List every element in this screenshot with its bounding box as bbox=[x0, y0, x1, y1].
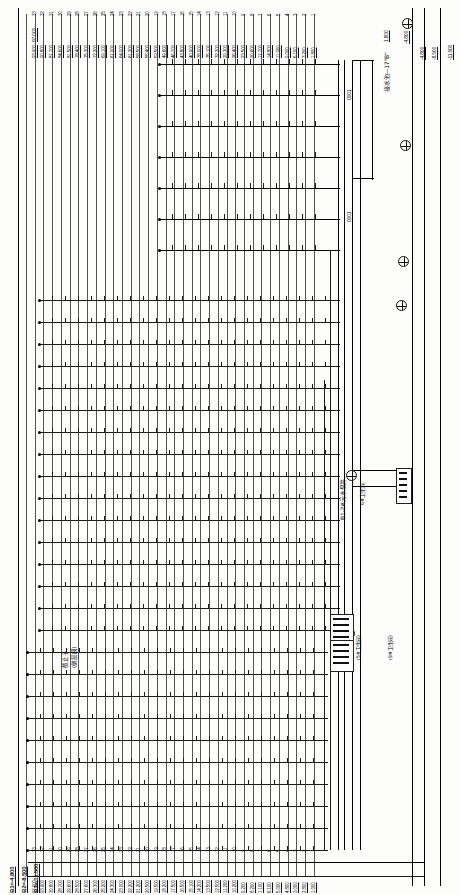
pipe-vertical bbox=[248, 780, 249, 784]
pipe-vertical bbox=[247, 406, 248, 410]
pipe-vertical bbox=[196, 692, 197, 696]
floor-number: 8 bbox=[250, 14, 255, 16]
pipe-vertical bbox=[273, 582, 274, 586]
floor-number: 17 bbox=[171, 11, 176, 16]
floor-number: 1 bbox=[311, 14, 316, 16]
pipe-vertical bbox=[208, 384, 209, 388]
pipe-vertical bbox=[300, 846, 301, 850]
floor-line bbox=[192, 14, 193, 876]
pipe-vertical bbox=[221, 362, 222, 366]
pipe-vertical bbox=[91, 318, 92, 322]
bottom-elevation-value: 28.500 bbox=[75, 880, 80, 893]
pipe-vertical bbox=[222, 714, 223, 718]
pipe-vertical bbox=[250, 59, 251, 64]
pipe-vertical bbox=[208, 318, 209, 322]
pipe-vertical bbox=[286, 516, 287, 520]
pipe-vertical bbox=[79, 714, 80, 718]
pipe-vertical bbox=[261, 824, 262, 828]
pipe-vertical bbox=[211, 245, 212, 250]
pipe-vertical bbox=[221, 604, 222, 608]
pipe-node bbox=[38, 629, 41, 632]
pipe-vertical bbox=[260, 450, 261, 454]
pipe-vertical bbox=[250, 214, 251, 219]
pipe-vertical bbox=[273, 626, 274, 630]
pipe-vertical bbox=[144, 736, 145, 740]
pipe-vertical bbox=[65, 538, 66, 542]
pipe-vertical bbox=[234, 560, 235, 564]
pipe-node bbox=[38, 453, 41, 456]
pipe-node bbox=[26, 849, 29, 852]
pipe-vertical bbox=[312, 406, 313, 410]
pipe-vertical bbox=[131, 692, 132, 696]
pipe-vertical bbox=[169, 384, 170, 388]
pipe-vertical bbox=[169, 604, 170, 608]
pipe-vertical bbox=[300, 780, 301, 784]
pipe-vertical bbox=[325, 296, 326, 300]
pipe-vertical bbox=[234, 472, 235, 476]
floor-number: 20 bbox=[145, 11, 150, 16]
bottom-elevation-value: 26.300 bbox=[93, 880, 98, 893]
pipe-vertical bbox=[78, 560, 79, 564]
pipe-vertical bbox=[118, 692, 119, 696]
pipe-vertical bbox=[65, 428, 66, 432]
pipe-vertical bbox=[250, 152, 251, 157]
pipe-horizontal bbox=[160, 188, 340, 189]
pipe-vertical bbox=[287, 758, 288, 762]
pipe-vertical bbox=[198, 183, 199, 188]
pipe-vertical bbox=[287, 670, 288, 674]
pipe-vertical bbox=[209, 758, 210, 762]
water-tank-label: 接水池—17"B" bbox=[384, 53, 389, 92]
pipe-vertical bbox=[78, 450, 79, 454]
pipe-vertical bbox=[65, 472, 66, 476]
floor-line bbox=[131, 14, 132, 876]
pipe-vertical bbox=[117, 582, 118, 586]
pipe-vertical bbox=[198, 152, 199, 157]
pipe-node bbox=[26, 783, 29, 786]
pipe-vertical bbox=[117, 428, 118, 432]
pipe-node bbox=[158, 125, 161, 128]
pipe-vertical bbox=[104, 340, 105, 344]
pipe-vertical bbox=[52, 318, 53, 322]
pipe-vertical bbox=[302, 90, 303, 95]
pipe-vertical bbox=[208, 626, 209, 630]
pipe-vertical bbox=[261, 714, 262, 718]
pipe-vertical bbox=[143, 582, 144, 586]
pipe-vertical bbox=[53, 780, 54, 784]
floor-number: 5 bbox=[276, 14, 281, 16]
pipe-vertical bbox=[260, 362, 261, 366]
pipe-vertical bbox=[170, 648, 171, 652]
floor-line bbox=[139, 14, 140, 876]
pipe-vertical bbox=[274, 714, 275, 718]
pipe-vertical bbox=[325, 318, 326, 322]
pipe-vertical bbox=[330, 250, 331, 850]
pipe-vertical bbox=[299, 626, 300, 630]
elevation-value: 72.200 bbox=[93, 45, 98, 58]
pipe-vertical bbox=[286, 450, 287, 454]
pipe-vertical bbox=[195, 472, 196, 476]
pipe-vertical bbox=[286, 318, 287, 322]
pipe-vertical bbox=[195, 560, 196, 564]
pipe-vertical bbox=[274, 758, 275, 762]
pipe-vertical bbox=[183, 758, 184, 762]
pipe-vertical bbox=[143, 494, 144, 498]
pipe-vertical bbox=[182, 604, 183, 608]
pipe-vertical bbox=[274, 802, 275, 806]
pipe-vertical bbox=[289, 183, 290, 188]
pipe-vertical bbox=[182, 626, 183, 630]
pipe-vertical bbox=[302, 245, 303, 250]
floor-line bbox=[61, 14, 62, 876]
pipe-vertical bbox=[315, 183, 316, 188]
fixture-branch bbox=[399, 496, 407, 498]
pipe-vertical bbox=[105, 780, 106, 784]
pipe-vertical bbox=[66, 780, 67, 784]
pipe-vertical bbox=[260, 296, 261, 300]
valve-note-1: 截止子 bbox=[63, 651, 68, 668]
pipe-vertical bbox=[170, 692, 171, 696]
floor-number: 3 bbox=[293, 14, 298, 16]
pipe-vertical bbox=[263, 245, 264, 250]
pipe-vertical bbox=[131, 736, 132, 740]
bottom-elevation-value: 16.500 bbox=[180, 880, 185, 893]
pipe-vertical bbox=[286, 406, 287, 410]
pipe-vertical bbox=[260, 604, 261, 608]
pipe-vertical bbox=[276, 121, 277, 126]
